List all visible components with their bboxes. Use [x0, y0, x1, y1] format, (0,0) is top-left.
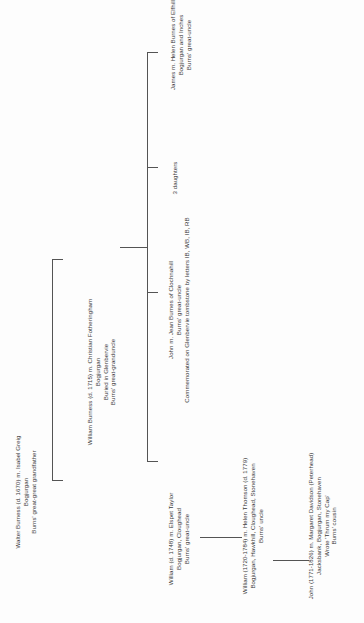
- connector-walter-vertical: [52, 259, 53, 481]
- node-line: Burns' uncle: [257, 436, 265, 616]
- node-james-burnes: James m. Helen Burnes of Elfhill Bogjurg…: [169, 0, 192, 120]
- connector-walter-top-stub: [52, 259, 63, 260]
- node-john-burnes-clochnahill: John m. Jean Burnes of Clochnahill Burns…: [167, 190, 190, 430]
- node-line: Burns' cousin: [330, 436, 338, 616]
- node-line: Burns' great-uncle: [185, 0, 193, 120]
- node-line: James m. Helen Burnes of Elfhill: [169, 0, 177, 120]
- node-line: Wrote 'Thrum my Cap': [323, 436, 331, 616]
- connector-william1748-to-william1720: [200, 537, 242, 538]
- node-line: Bogjurgan, Cloughead: [175, 464, 183, 614]
- node-line: Buried in Glenbervie: [102, 252, 110, 492]
- node-line: Burns' great-granduncle: [109, 252, 117, 492]
- node-line: Bogjurgan, Hawkhill, Cloughead, Stonehav…: [249, 436, 257, 616]
- node-line: Bogjurgan: [22, 372, 30, 612]
- node-line: Bogjurgan: [94, 252, 102, 492]
- node-john-1771-1826: John (1771-1826) m. Margaret Davidson (P…: [307, 436, 338, 616]
- node-line: Burns' great-uncle: [183, 464, 191, 614]
- node-line: Jacksbank, Bogjurgan, Stonehaven: [315, 436, 323, 616]
- node-line: William Burness (d. 1715) m. Christian F…: [86, 252, 94, 492]
- node-william-burness-1715: William Burness (d. 1715) m. Christian F…: [86, 252, 117, 492]
- node-line: John m. Jean Burnes of Clochnahill: [167, 190, 175, 430]
- connector-william1715-children-spine: [147, 52, 148, 462]
- node-line: Burns' great-great grandfather: [30, 372, 38, 612]
- node-line: William (1720-1784) m. Helen Thomson (d.…: [241, 436, 249, 616]
- connector-child-stub-daughters: [147, 167, 158, 168]
- connector-william1720-to-john1771: [273, 560, 309, 561]
- connector-william1715-parent-stub: [120, 247, 148, 248]
- node-line: Burns' great-uncle: [175, 190, 183, 430]
- connector-child-stub-william1748: [147, 461, 158, 462]
- node-line: William (d. 1748) m. Elspet Taylor: [167, 464, 175, 614]
- family-tree-diagram: Walter Burness (d. 1670) m. Isabel Greig…: [0, 0, 364, 623]
- node-line: Commemorated on Glenbervie tombstone by …: [183, 190, 191, 430]
- connector-child-stub-john: [147, 292, 158, 293]
- node-walter-burness: Walter Burness (d. 1670) m. Isabel Greig…: [14, 372, 37, 612]
- node-line: Bogjurgan and Inches: [177, 0, 185, 120]
- node-william-1748: William (d. 1748) m. Elspet Taylor Bogju…: [167, 464, 190, 614]
- connector-child-stub-james: [147, 52, 158, 53]
- node-line: Walter Burness (d. 1670) m. Isabel Greig: [14, 372, 22, 612]
- node-william-1720-1784: William (1720-1784) m. Helen Thomson (d.…: [241, 436, 264, 616]
- node-line: John (1771-1826) m. Margaret Davidson (P…: [307, 436, 315, 616]
- connector-walter-bottom-stub: [52, 480, 63, 481]
